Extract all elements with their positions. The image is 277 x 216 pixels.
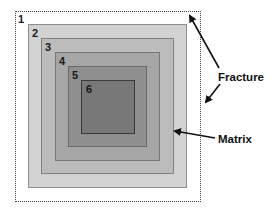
annotation-arrows (0, 0, 277, 216)
fracture-arrow-down (206, 84, 220, 102)
matrix-arrow (175, 131, 215, 138)
fracture-label: Fracture (218, 72, 264, 84)
matrix-label: Matrix (218, 134, 252, 146)
fracture-arrow-up (190, 16, 219, 68)
